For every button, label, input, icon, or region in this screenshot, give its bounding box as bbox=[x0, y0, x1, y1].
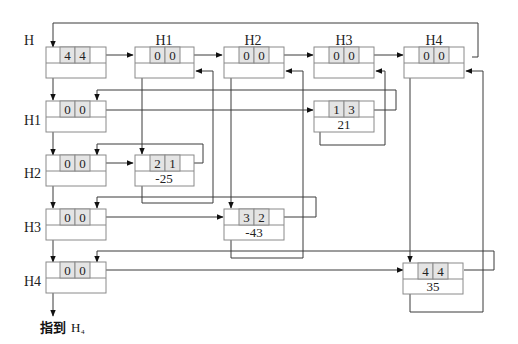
head-label: H bbox=[24, 33, 34, 48]
column-header-h3: H3 0 0 bbox=[314, 33, 374, 78]
cell-row: 0 bbox=[64, 263, 71, 278]
cell-col: 3 bbox=[348, 102, 355, 117]
cell-value: 35 bbox=[427, 279, 440, 294]
cell-col: 0 bbox=[438, 48, 445, 63]
footer-text: 指到 bbox=[40, 320, 66, 335]
column-header-h4: H4 0 0 bbox=[404, 33, 464, 78]
cell-row: 0 bbox=[154, 48, 161, 63]
column-header-label: H3 bbox=[335, 33, 352, 48]
cell-row: 0 bbox=[64, 102, 71, 117]
column-header-label: H2 bbox=[244, 33, 261, 48]
cell-col: 0 bbox=[79, 210, 86, 225]
head-node: H 4 4 bbox=[24, 33, 106, 78]
cell-col: 4 bbox=[437, 264, 444, 279]
column-header-h2: H2 0 0 bbox=[224, 33, 284, 78]
cell-row: 0 bbox=[423, 48, 430, 63]
row-header-label: H2 bbox=[24, 166, 41, 181]
element-node-4-4: 4 4 35 bbox=[403, 263, 463, 294]
cell-row: 0 bbox=[64, 156, 71, 171]
footer-caption: 指到 H 4 bbox=[40, 320, 85, 336]
element-node-3-2: 3 2 -43 bbox=[224, 209, 284, 240]
element-node-2-1: 2 1 -25 bbox=[135, 155, 194, 186]
cell-col: 0 bbox=[79, 263, 86, 278]
cell-value: 21 bbox=[338, 117, 351, 132]
cell-col: 0 bbox=[348, 48, 355, 63]
footer-target: H bbox=[71, 320, 80, 335]
column-header-h1: H1 0 0 bbox=[135, 33, 194, 78]
cell-row: 2 bbox=[154, 156, 161, 171]
element-node-1-3: 1 3 21 bbox=[314, 101, 374, 132]
row-header-label: H4 bbox=[24, 274, 41, 289]
cell-row: 1 bbox=[333, 102, 340, 117]
cell-col: 0 bbox=[169, 48, 176, 63]
cell-col: 0 bbox=[79, 156, 86, 171]
cell-value: -25 bbox=[155, 171, 172, 186]
row-header-label: H1 bbox=[24, 113, 41, 128]
cell-row: 0 bbox=[64, 210, 71, 225]
head-col: 4 bbox=[79, 48, 86, 63]
cell-row: 4 bbox=[422, 264, 429, 279]
row-header-h4: H4 0 0 bbox=[24, 262, 106, 293]
cell-col: 0 bbox=[79, 102, 86, 117]
row-header-h3: H3 0 0 bbox=[24, 209, 106, 240]
column-header-label: H1 bbox=[155, 33, 172, 48]
column-header-label: H4 bbox=[425, 33, 442, 48]
cell-col: 2 bbox=[258, 210, 265, 225]
cell-row: 0 bbox=[333, 48, 340, 63]
cell-col: 1 bbox=[169, 156, 176, 171]
cell-row: 0 bbox=[243, 48, 250, 63]
row-header-h1: H1 0 0 bbox=[24, 101, 106, 132]
row-header-h2: H2 0 0 bbox=[24, 155, 106, 186]
cell-row: 3 bbox=[243, 210, 250, 225]
footer-subscript: 4 bbox=[81, 328, 85, 336]
row-header-label: H3 bbox=[24, 220, 41, 235]
head-row: 4 bbox=[64, 48, 71, 63]
orthogonal-list-diagram: H 4 4 H1 0 0 H2 0 0 H3 0 0 H4 bbox=[0, 0, 518, 344]
cell-col: 0 bbox=[258, 48, 265, 63]
cell-value: -43 bbox=[245, 225, 262, 240]
